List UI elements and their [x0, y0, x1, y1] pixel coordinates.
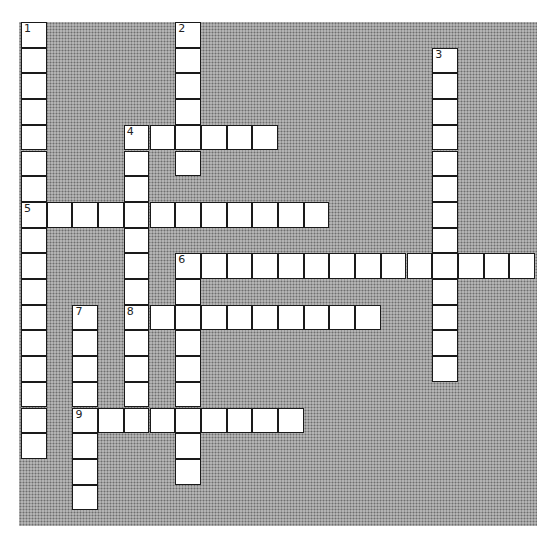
crossword-cell[interactable]	[432, 279, 458, 305]
crossword-cell[interactable]	[227, 408, 253, 434]
crossword-cell[interactable]	[21, 48, 47, 74]
crossword-cell[interactable]	[21, 253, 47, 279]
crossword-cell[interactable]	[201, 202, 227, 228]
crossword-cell[interactable]	[432, 73, 458, 99]
crossword-cell[interactable]: 3	[432, 48, 458, 74]
crossword-cell[interactable]: 5	[21, 202, 47, 228]
crossword-cell[interactable]	[21, 228, 47, 254]
crossword-cell[interactable]	[98, 202, 124, 228]
crossword-cell[interactable]	[252, 305, 278, 331]
crossword-cell[interactable]	[329, 253, 355, 279]
crossword-cell[interactable]	[124, 228, 150, 254]
crossword-cell[interactable]	[175, 99, 201, 125]
crossword-cell[interactable]	[201, 408, 227, 434]
crossword-cell[interactable]	[175, 305, 201, 331]
crossword-cell[interactable]	[124, 408, 150, 434]
crossword-cell[interactable]	[72, 459, 98, 485]
crossword-cell[interactable]	[381, 253, 407, 279]
crossword-cell[interactable]	[21, 408, 47, 434]
crossword-cell[interactable]	[432, 202, 458, 228]
crossword-cell[interactable]: 8	[124, 305, 150, 331]
crossword-cell[interactable]: 9	[72, 408, 98, 434]
crossword-cell[interactable]	[175, 125, 201, 151]
crossword-cell[interactable]	[278, 202, 304, 228]
crossword-cell[interactable]: 6	[175, 253, 201, 279]
crossword-cell[interactable]	[21, 330, 47, 356]
crossword-cell[interactable]	[150, 125, 176, 151]
crossword-cell[interactable]	[98, 408, 124, 434]
crossword-cell[interactable]	[124, 151, 150, 177]
crossword-cell[interactable]	[432, 151, 458, 177]
crossword-cell[interactable]	[175, 330, 201, 356]
crossword-cell[interactable]	[355, 253, 381, 279]
crossword-cell[interactable]: 2	[175, 22, 201, 48]
crossword-cell[interactable]	[432, 253, 458, 279]
crossword-cell[interactable]	[150, 202, 176, 228]
crossword-cell[interactable]	[72, 485, 98, 511]
crossword-cell[interactable]	[175, 408, 201, 434]
crossword-cell[interactable]	[227, 125, 253, 151]
crossword-cell[interactable]	[124, 330, 150, 356]
crossword-cell[interactable]: 7	[72, 305, 98, 331]
crossword-cell[interactable]	[72, 382, 98, 408]
crossword-cell[interactable]	[175, 279, 201, 305]
crossword-cell[interactable]	[175, 202, 201, 228]
crossword-cell[interactable]	[252, 202, 278, 228]
crossword-cell[interactable]	[72, 202, 98, 228]
crossword-cell[interactable]	[72, 433, 98, 459]
crossword-cell[interactable]	[432, 305, 458, 331]
crossword-cell[interactable]	[21, 151, 47, 177]
crossword-cell[interactable]	[432, 176, 458, 202]
crossword-cell[interactable]	[21, 356, 47, 382]
crossword-cell[interactable]	[47, 202, 73, 228]
crossword-cell[interactable]	[124, 382, 150, 408]
crossword-cell[interactable]	[432, 125, 458, 151]
crossword-cell[interactable]	[432, 99, 458, 125]
crossword-cell[interactable]	[21, 176, 47, 202]
crossword-cell[interactable]	[484, 253, 510, 279]
crossword-cell[interactable]	[227, 253, 253, 279]
crossword-cell[interactable]: 1	[21, 22, 47, 48]
crossword-cell[interactable]	[432, 356, 458, 382]
crossword-cell[interactable]	[458, 253, 484, 279]
crossword-cell[interactable]	[21, 99, 47, 125]
crossword-cell[interactable]	[227, 202, 253, 228]
crossword-cell[interactable]	[432, 228, 458, 254]
crossword-cell[interactable]	[175, 459, 201, 485]
crossword-cell[interactable]	[124, 253, 150, 279]
crossword-cell[interactable]	[227, 305, 253, 331]
crossword-cell[interactable]	[21, 305, 47, 331]
crossword-cell[interactable]	[21, 125, 47, 151]
crossword-cell[interactable]	[175, 73, 201, 99]
crossword-cell[interactable]	[124, 279, 150, 305]
crossword-cell[interactable]	[304, 202, 330, 228]
crossword-cell[interactable]	[252, 253, 278, 279]
crossword-cell[interactable]	[304, 253, 330, 279]
crossword-cell[interactable]	[407, 253, 433, 279]
crossword-cell[interactable]	[304, 305, 330, 331]
crossword-cell[interactable]	[124, 202, 150, 228]
crossword-cell[interactable]	[278, 305, 304, 331]
crossword-cell[interactable]	[124, 356, 150, 382]
crossword-cell[interactable]	[278, 408, 304, 434]
crossword-cell[interactable]	[175, 48, 201, 74]
crossword-cell[interactable]	[21, 73, 47, 99]
crossword-cell[interactable]	[150, 305, 176, 331]
crossword-cell[interactable]	[201, 305, 227, 331]
crossword-cell[interactable]	[21, 279, 47, 305]
crossword-cell[interactable]	[175, 356, 201, 382]
crossword-cell[interactable]	[355, 305, 381, 331]
crossword-cell[interactable]	[21, 433, 47, 459]
crossword-cell[interactable]: 4	[124, 125, 150, 151]
crossword-cell[interactable]	[201, 125, 227, 151]
crossword-cell[interactable]	[150, 408, 176, 434]
crossword-cell[interactable]	[124, 176, 150, 202]
crossword-cell[interactable]	[175, 382, 201, 408]
crossword-cell[interactable]	[432, 330, 458, 356]
crossword-cell[interactable]	[175, 151, 201, 177]
crossword-cell[interactable]	[252, 125, 278, 151]
crossword-cell[interactable]	[175, 433, 201, 459]
crossword-cell[interactable]	[21, 382, 47, 408]
crossword-cell[interactable]	[72, 356, 98, 382]
crossword-cell[interactable]	[329, 305, 355, 331]
